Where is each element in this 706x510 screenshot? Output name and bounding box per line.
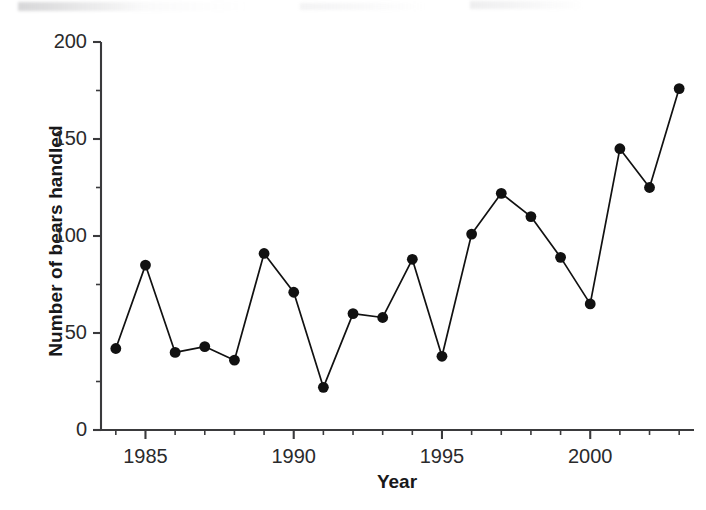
data-point-marker <box>466 229 477 240</box>
data-point-marker <box>555 252 566 263</box>
x-tick-label: 1990 <box>249 446 339 466</box>
data-point-marker <box>229 355 240 366</box>
axis-lines <box>101 42 694 430</box>
data-point-marker <box>407 254 418 265</box>
data-point-marker <box>644 182 655 193</box>
data-point-marker <box>199 341 210 352</box>
series-line <box>116 89 679 388</box>
bear-handling-line-chart: Number of bears handled Year 05010015020… <box>0 0 706 510</box>
plot-area <box>0 0 706 510</box>
x-tick-label: 2000 <box>545 446 635 466</box>
y-tick-label: 0 <box>27 419 87 439</box>
y-tick-label: 100 <box>27 225 87 245</box>
y-tick-label: 200 <box>27 31 87 51</box>
data-point-marker <box>140 260 151 271</box>
x-tick-label: 1995 <box>397 446 487 466</box>
data-point-marker <box>288 287 299 298</box>
data-point-marker <box>614 143 625 154</box>
data-point-marker <box>496 188 507 199</box>
data-series-bears-handled <box>110 83 684 393</box>
data-point-marker <box>348 308 359 319</box>
axis-ticks <box>93 42 679 439</box>
x-axis-title: Year <box>100 471 694 493</box>
data-point-marker <box>674 83 685 94</box>
data-point-marker <box>377 312 388 323</box>
data-point-marker <box>170 347 181 358</box>
data-point-marker <box>110 343 121 354</box>
y-tick-label: 50 <box>27 322 87 342</box>
x-tick-label: 1985 <box>100 446 190 466</box>
data-point-marker <box>437 351 448 362</box>
data-point-marker <box>585 299 596 310</box>
data-point-marker <box>318 382 329 393</box>
data-point-marker <box>259 248 270 259</box>
y-tick-label: 150 <box>27 128 87 148</box>
data-point-marker <box>526 211 537 222</box>
